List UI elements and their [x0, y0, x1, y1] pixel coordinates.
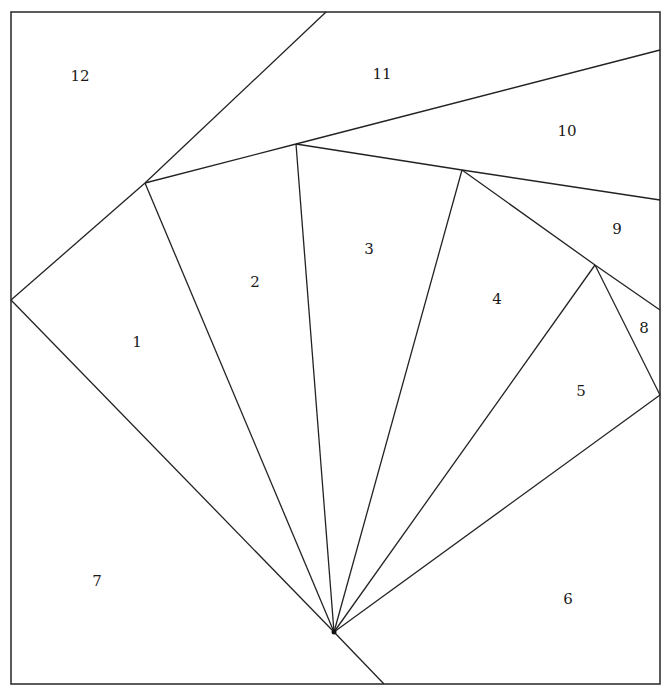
- hub-point: [332, 630, 337, 635]
- region-label-7: 7: [92, 572, 102, 590]
- region-label-1: 1: [132, 333, 142, 351]
- piecing-diagram: 123456789101112: [0, 0, 664, 687]
- region-label-5: 5: [576, 382, 586, 400]
- region-label-8: 8: [639, 319, 649, 337]
- region-label-2: 2: [250, 273, 260, 291]
- region-label-10: 10: [557, 122, 576, 140]
- region-label-3: 3: [364, 240, 374, 258]
- region-label-11: 11: [372, 65, 391, 83]
- region-label-9: 9: [612, 220, 622, 238]
- outer-frame: [11, 12, 660, 684]
- region-label-4: 4: [492, 290, 502, 308]
- region-label-6: 6: [563, 590, 573, 608]
- region-label-12: 12: [70, 67, 89, 85]
